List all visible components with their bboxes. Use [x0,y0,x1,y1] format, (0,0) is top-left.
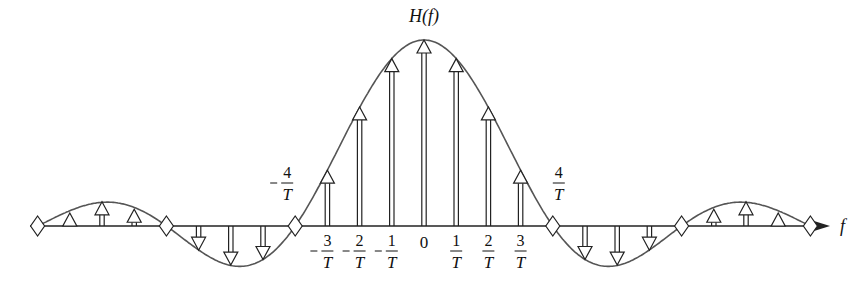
impulse-arrow [514,170,528,226]
tick-label: 4T [270,164,293,204]
svg-text:4: 4 [555,164,563,181]
svg-text:T: T [451,253,462,272]
impulse-arrow [224,226,238,265]
impulse-arrow [739,202,753,226]
tick-label: 2T [343,232,366,272]
svg-text:T: T [355,253,366,272]
zero-diamond-icon [159,216,173,236]
impulse-arrow [481,107,495,226]
svg-text:3: 3 [517,232,525,249]
impulse-arrow [95,202,109,226]
zero-diamond-icon [31,216,45,236]
svg-text:3: 3 [323,232,331,249]
impulse-arrow [127,209,141,226]
svg-text:2: 2 [356,232,364,249]
zero-diamond-icon [803,216,817,236]
tick-label: 0 [420,233,429,252]
impulse-arrow [417,40,431,226]
spectrum-diagram: 4T3T2T1T01T2T3T4T H(f) f [0,0,858,287]
impulse-stems [63,40,785,265]
zero-diamond-icon [675,216,689,236]
impulse-arrow [63,213,77,226]
impulse-arrow [707,209,721,226]
impulse-arrow [449,59,463,226]
svg-text:4: 4 [283,164,291,181]
impulse-arrow [578,226,592,259]
svg-text:T: T [282,185,293,204]
tick-label: 3T [310,232,333,272]
impulse-arrow [353,107,367,226]
tick-label: 2T [482,232,494,272]
svg-text:T: T [554,185,565,204]
tick-label: 1T [375,232,398,272]
svg-text:1: 1 [388,232,396,249]
svg-text:T: T [516,253,527,272]
tick-label: 3T [515,232,527,272]
function-title: H(f) [408,6,439,27]
tick-label: 1T [450,232,462,272]
svg-text:T: T [484,253,495,272]
tick-label: 4T [553,164,565,204]
svg-text:1: 1 [452,232,460,249]
svg-text:0: 0 [420,233,429,252]
svg-text:2: 2 [484,232,492,249]
impulse-arrow [385,59,399,226]
impulse-arrow [771,213,785,226]
impulse-arrow [610,226,624,265]
impulse-arrow [320,170,334,226]
axis-label-f: f [840,216,848,236]
svg-text:T: T [387,253,398,272]
impulse-arrow [256,226,270,259]
svg-text:T: T [323,253,334,272]
